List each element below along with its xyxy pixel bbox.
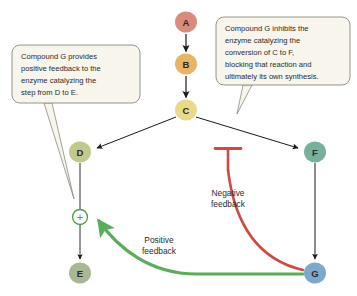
node-g[interactable]: G (304, 263, 326, 284)
negative-feedback-label-line-2: feedback (211, 199, 246, 209)
pathway-diagram: Compound G provides positive feedback to… (0, 0, 357, 296)
callout-positive-feedback: Compound G provides positive feedback to… (12, 45, 140, 103)
node-e[interactable]: E (69, 263, 91, 284)
node-e-shape[interactable] (69, 263, 91, 284)
node-g-shape[interactable] (304, 263, 326, 284)
callout-negative-line-5: ultimately its own synthesis. (225, 72, 319, 81)
positive-feedback-label-line-2: feedback (142, 246, 177, 256)
node-b-shape[interactable] (175, 54, 197, 75)
callout-negative-line-4: blocking that reaction and (225, 60, 312, 69)
callout-positive-line-1: Compound G provides (21, 52, 97, 61)
positive-regulation-point[interactable]: + (73, 210, 88, 225)
plus-symbol: + (77, 211, 83, 223)
callout-positive-line-3: enzyme catalyzing the (21, 76, 96, 85)
diagram-canvas: Compound G provides positive feedback to… (0, 0, 357, 296)
negative-feedback-label: Negative feedback (211, 188, 246, 209)
callout-negative-feedback: Compound G inhibits the enzyme catalyzin… (216, 17, 350, 85)
callout-negative-line-2: enzyme catalyzing the (225, 36, 300, 45)
node-a[interactable]: A (175, 12, 197, 33)
negative-feedback-path (228, 170, 303, 270)
arrow-c-to-d (97, 117, 176, 148)
callout-positive-line-2: positive feedback to the (21, 64, 101, 73)
callout-positive-line-4: step from D to E. (21, 88, 78, 97)
arrow-c-to-f (196, 117, 298, 148)
node-c[interactable]: C (175, 100, 197, 121)
node-a-shape[interactable] (175, 12, 197, 33)
callout-negative-line-1: Compound G inhibits the (225, 24, 309, 33)
node-b[interactable]: B (175, 54, 197, 75)
node-d[interactable]: D (69, 142, 91, 163)
positive-feedback-path (99, 221, 303, 274)
node-f-shape[interactable] (304, 142, 326, 163)
positive-feedback-label-line-1: Positive (144, 235, 174, 245)
node-c-shape[interactable] (175, 100, 197, 121)
node-f[interactable]: F (304, 142, 326, 163)
positive-feedback-label: Positive feedback (142, 235, 177, 256)
callout-negative-line-3: conversion of C to F, (225, 48, 294, 57)
negative-feedback-label-line-1: Negative (211, 188, 244, 198)
callout-right-tail (237, 85, 252, 114)
node-d-shape[interactable] (69, 142, 91, 163)
